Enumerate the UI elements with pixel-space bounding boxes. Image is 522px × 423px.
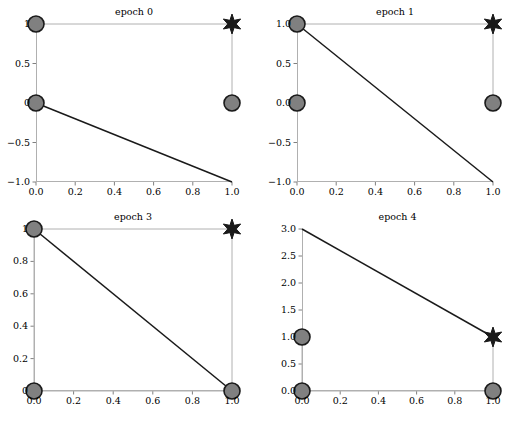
x-tick-label: 0.2 (66, 396, 81, 406)
data-point-circle (28, 95, 44, 111)
plot-title: epoch 0 (36, 6, 232, 17)
y-tick-label: −0.5 (7, 138, 30, 148)
y-tick-label: −1.0 (268, 177, 291, 187)
x-tick-label: 0.4 (107, 187, 122, 197)
x-tick-label: 0.4 (368, 187, 383, 197)
y-tick-label: 2.0 (281, 278, 296, 288)
y-tick-label: −0.5 (268, 138, 291, 148)
data-point-circle (224, 95, 240, 111)
x-tick-label: 0.0 (26, 396, 41, 406)
x-tick-label: 0.8 (185, 396, 200, 406)
x-tick-label: 0.4 (106, 396, 121, 406)
data-point-circle (485, 95, 501, 111)
subplot-4: epoch 43.02.52.01.51.00.50.00.00.20.40.6… (261, 207, 522, 423)
y-tick-label: 1 (22, 224, 28, 234)
axes-svg (34, 229, 232, 391)
y-tick-label: 0.2 (13, 354, 28, 364)
plot-title: epoch 4 (302, 211, 493, 222)
x-tick-label: 1.0 (485, 396, 500, 406)
x-tick-label: 0.2 (68, 187, 83, 197)
data-point-circle (26, 221, 42, 237)
y-tick-label: 1.0 (276, 19, 291, 29)
decision-boundary (36, 103, 232, 182)
connector-path (36, 24, 232, 103)
axes-area: 10.50−0.5−1.00.00.20.40.60.81.0 (36, 24, 232, 182)
x-tick-label: 0.6 (146, 187, 161, 197)
axes-svg (297, 24, 493, 182)
y-tick-label: 0.5 (276, 59, 291, 69)
axes-svg (302, 229, 493, 391)
data-point-star (484, 327, 501, 347)
y-tick-label: 0 (24, 98, 30, 108)
y-tick-label: 3.0 (281, 224, 296, 234)
x-tick-label: 0.2 (333, 396, 348, 406)
x-tick-label: 0.6 (145, 396, 160, 406)
x-tick-label: 0.0 (294, 396, 309, 406)
x-tick-label: 0.0 (28, 187, 43, 197)
decision-boundary (297, 24, 493, 182)
axes-area: 10.80.60.40.200.00.20.40.60.81.0 (34, 229, 232, 391)
subplot-2: epoch 11.00.50.0−0.5−1.00.00.20.40.60.81… (261, 2, 522, 209)
decision-boundary (34, 229, 232, 391)
axes-area: 3.02.52.01.51.00.50.00.00.20.40.60.81.0 (302, 229, 493, 391)
data-point-circle (289, 16, 305, 32)
data-point-circle (294, 329, 310, 345)
connector-path (297, 24, 493, 103)
plot-title: epoch 1 (297, 6, 493, 17)
y-tick-label: 1.5 (281, 305, 296, 315)
x-tick-label: 0.8 (185, 187, 200, 197)
y-tick-label: −1.0 (7, 177, 30, 187)
x-tick-label: 0.6 (409, 396, 424, 406)
y-tick-label: 0.8 (13, 256, 28, 266)
plot-title: epoch 3 (34, 211, 232, 222)
y-tick-label: 0.5 (15, 59, 30, 69)
axes-svg (36, 24, 232, 182)
subplot-1: epoch 010.50−0.5−1.00.00.20.40.60.81.0 (0, 2, 261, 209)
y-tick-label: 0.5 (281, 359, 296, 369)
x-tick-label: 0.6 (407, 187, 422, 197)
x-tick-label: 0.4 (371, 396, 386, 406)
y-tick-label: 0.6 (13, 289, 28, 299)
connector-path (302, 337, 493, 391)
figure-canvas: epoch 010.50−0.5−1.00.00.20.40.60.81.0ep… (0, 0, 522, 423)
subplot-3: epoch 310.80.60.40.200.00.20.40.60.81.0 (0, 207, 261, 423)
decision-boundary (302, 229, 493, 337)
data-point-circle (289, 95, 305, 111)
x-tick-label: 1.0 (224, 396, 239, 406)
x-tick-label: 0.2 (329, 187, 344, 197)
x-tick-label: 0.0 (289, 187, 304, 197)
y-tick-label: 0.0 (276, 98, 291, 108)
x-tick-label: 1.0 (485, 187, 500, 197)
x-tick-label: 0.8 (446, 187, 461, 197)
x-tick-label: 1.0 (224, 187, 239, 197)
x-tick-label: 0.8 (447, 396, 462, 406)
y-tick-label: 0.4 (13, 321, 28, 331)
y-tick-label: 1 (24, 19, 30, 29)
y-tick-label: 1.0 (281, 332, 296, 342)
y-tick-label: 2.5 (281, 251, 296, 261)
axes-area: 1.00.50.0−0.5−1.00.00.20.40.60.81.0 (297, 24, 493, 182)
data-point-circle (28, 16, 44, 32)
